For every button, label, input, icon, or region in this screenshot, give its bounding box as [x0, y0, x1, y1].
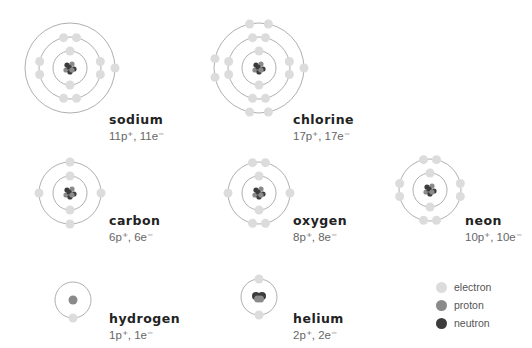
- electron-icon: [255, 172, 264, 181]
- element-name: hydrogen: [109, 311, 180, 326]
- electron-icon: [432, 216, 441, 225]
- electron-icon: [66, 158, 75, 167]
- electron-icon: [395, 179, 404, 188]
- electron-icon: [35, 189, 44, 198]
- electron-icon: [72, 94, 81, 103]
- electron-icon: [248, 219, 257, 228]
- nucleus-icon: [63, 186, 76, 199]
- electron-icon: [96, 70, 105, 79]
- electron-icon: [224, 57, 233, 66]
- element-name: oxygen: [293, 213, 347, 228]
- particle-count: 6p⁺, 6e⁻: [109, 230, 160, 244]
- electron-icon: [426, 169, 435, 178]
- atom-neon: [395, 155, 465, 225]
- electron-icon: [35, 57, 44, 66]
- atom-label-helium: helium2p⁺, 2e⁻: [293, 311, 344, 342]
- electron-icon: [261, 33, 270, 42]
- electron-icon: [300, 64, 309, 73]
- atom-label-sodium: sodium11p⁺, 11e⁻: [109, 112, 164, 143]
- particle-count: 1p⁺, 1e⁻: [109, 328, 180, 342]
- electron-icon: [261, 94, 270, 103]
- electron-icon: [72, 33, 81, 42]
- electron-icon: [66, 172, 75, 181]
- electron-icon: [224, 70, 233, 79]
- atom-label-chlorine: chlorine17p⁺, 17e⁻: [293, 112, 354, 143]
- particle-count: 10p⁺, 10e⁻: [465, 230, 522, 244]
- electron-icon: [255, 81, 264, 90]
- electron-icon: [419, 155, 428, 164]
- electron-icon: [245, 19, 254, 28]
- atom-label-neon: neon10p⁺, 10e⁻: [465, 213, 522, 244]
- legend-item-neutron: neutron: [436, 314, 491, 332]
- nucleus-icon: [252, 61, 265, 74]
- atom-label-hydrogen: hydrogen1p⁺, 1e⁻: [109, 311, 180, 342]
- electron-icon: [264, 108, 273, 117]
- proton-icon: [436, 300, 447, 311]
- atom-hydrogen: [55, 282, 91, 323]
- electron-icon: [285, 70, 294, 79]
- element-name: carbon: [109, 213, 160, 228]
- electron-icon: [456, 192, 465, 201]
- nucleus-icon: [423, 183, 436, 196]
- nucleus-icon: [252, 292, 266, 303]
- legend-item-proton: proton: [436, 296, 491, 314]
- neutron-icon: [436, 318, 447, 329]
- electron-icon: [432, 155, 441, 164]
- electron-icon: [210, 73, 219, 82]
- electron-icon: [261, 219, 270, 228]
- electron-icon: [255, 311, 264, 320]
- legend-label: electron: [454, 281, 491, 293]
- atom-label-oxygen: oxygen8p⁺, 8e⁻: [293, 213, 347, 244]
- electron-icon: [66, 206, 75, 215]
- electron-icon: [395, 192, 404, 201]
- electron-icon: [285, 57, 294, 66]
- atom-sodium: [25, 23, 120, 113]
- electron-icon: [59, 94, 68, 103]
- atom-oxygen: [224, 158, 295, 228]
- electron-icon: [456, 179, 465, 188]
- nucleus-icon: [63, 61, 76, 74]
- electron-icon: [111, 64, 120, 73]
- electron-icon: [66, 220, 75, 229]
- electron-icon: [96, 57, 105, 66]
- element-name: chlorine: [293, 112, 354, 127]
- electron-icon: [426, 203, 435, 212]
- electron-icon: [264, 19, 273, 28]
- atom-carbon: [35, 158, 106, 229]
- electron-icon: [210, 54, 219, 63]
- particle-count: 17p⁺, 17e⁻: [293, 129, 354, 143]
- electron-icon: [248, 33, 257, 42]
- nucleus-icon: [252, 186, 265, 199]
- atom-chlorine: [210, 19, 308, 116]
- electron-icon: [245, 108, 254, 117]
- particle-count: 2p⁺, 2e⁻: [293, 328, 344, 342]
- electron-icon: [419, 216, 428, 225]
- electron-icon: [224, 189, 233, 198]
- electron-icon: [261, 158, 270, 167]
- legend: electron proton neutron: [436, 278, 491, 332]
- particle-count: 8p⁺, 8e⁻: [293, 230, 347, 244]
- particle-count: 11p⁺, 11e⁻: [109, 129, 164, 143]
- legend-item-electron: electron: [436, 278, 491, 296]
- electron-icon: [35, 70, 44, 79]
- electron-icon: [436, 282, 447, 293]
- atom-label-carbon: carbon6p⁺, 6e⁻: [109, 213, 160, 244]
- electron-icon: [66, 81, 75, 90]
- electron-icon: [69, 314, 78, 323]
- atom-helium: [241, 275, 277, 320]
- electron-icon: [59, 33, 68, 42]
- electron-icon: [286, 189, 295, 198]
- electron-icon: [66, 47, 75, 56]
- electron-icon: [248, 158, 257, 167]
- legend-label: proton: [454, 299, 484, 311]
- nucleus-icon: [69, 296, 78, 305]
- electron-icon: [255, 206, 264, 215]
- element-name: sodium: [109, 112, 164, 127]
- element-name: neon: [465, 213, 522, 228]
- legend-label: neutron: [454, 317, 490, 329]
- electron-icon: [248, 94, 257, 103]
- element-name: helium: [293, 311, 344, 326]
- electron-icon: [97, 189, 106, 198]
- electron-icon: [255, 47, 264, 56]
- electron-icon: [255, 275, 264, 284]
